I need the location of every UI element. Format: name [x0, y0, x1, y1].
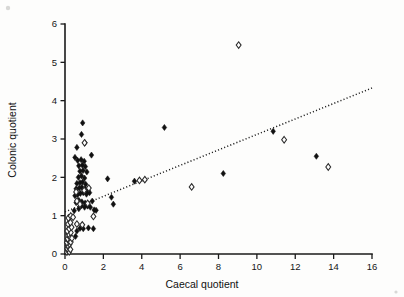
filled-diamond-marker: [75, 144, 80, 150]
x-tick-label: 16: [367, 261, 378, 272]
scan-artifact: [394, 290, 397, 293]
open-diamond-marker: [142, 176, 147, 183]
filled-diamond-marker: [89, 152, 94, 158]
filled-diamond-marker: [105, 176, 110, 182]
open-diamond-marker: [236, 42, 241, 49]
open-diamond-marker: [91, 213, 96, 220]
filled-diamond-marker: [72, 208, 77, 214]
filled-diamond-marker: [79, 131, 84, 137]
trend-line: [65, 88, 372, 212]
y-tick-label: 4: [52, 95, 57, 106]
y-tick-label: 2: [52, 172, 57, 183]
y-tick-label: 5: [52, 57, 57, 68]
scan-artifact: [6, 6, 10, 10]
filled-diamond-marker: [91, 226, 96, 232]
filled-diamond-marker: [162, 124, 167, 130]
filled-diamond-marker: [271, 128, 276, 134]
x-tick-label: 4: [139, 261, 144, 272]
filled-diamond-marker: [86, 225, 91, 231]
open-diamond-marker: [189, 184, 194, 191]
filled-diamond-marker: [221, 170, 226, 176]
open-diamond-marker: [326, 164, 331, 171]
y-tick-label: 6: [52, 18, 57, 29]
x-tick-label: 0: [62, 261, 67, 272]
open-diamond-marker: [282, 136, 287, 143]
open-diamond-marker: [82, 140, 87, 147]
regression-line: [65, 88, 372, 212]
y-axis: 0123456: [52, 18, 65, 259]
y-tick-label: 1: [52, 210, 57, 221]
x-tick-label: 2: [101, 261, 106, 272]
filled-diamond-marker: [80, 120, 85, 126]
x-tick-label: 12: [290, 261, 301, 272]
x-axis: 0246810121416: [62, 254, 377, 272]
x-tick-label: 10: [252, 261, 263, 272]
x-tick-label: 14: [328, 261, 339, 272]
y-axis-title: Colonic quotient: [6, 102, 18, 177]
figure-canvas: 0123456 0246810121416 Caecal quotient Co…: [0, 0, 404, 297]
filled-diamond-marker: [314, 153, 319, 159]
y-tick-label: 3: [52, 133, 57, 144]
open-diamond-marker: [137, 177, 142, 184]
y-tick-label: 0: [52, 248, 57, 259]
filled-diamond-marker: [90, 198, 95, 204]
scatter-plot: 0123456 0246810121416 Caecal quotient Co…: [0, 0, 404, 297]
filled-diamond-marker: [109, 194, 114, 200]
data-points: [64, 42, 330, 256]
open-diamond-marker: [74, 221, 79, 228]
filled-diamond-marker: [111, 201, 116, 207]
x-tick-label: 6: [177, 261, 182, 272]
x-tick-label: 8: [216, 261, 221, 272]
x-axis-title: Caecal quotient: [166, 278, 239, 290]
